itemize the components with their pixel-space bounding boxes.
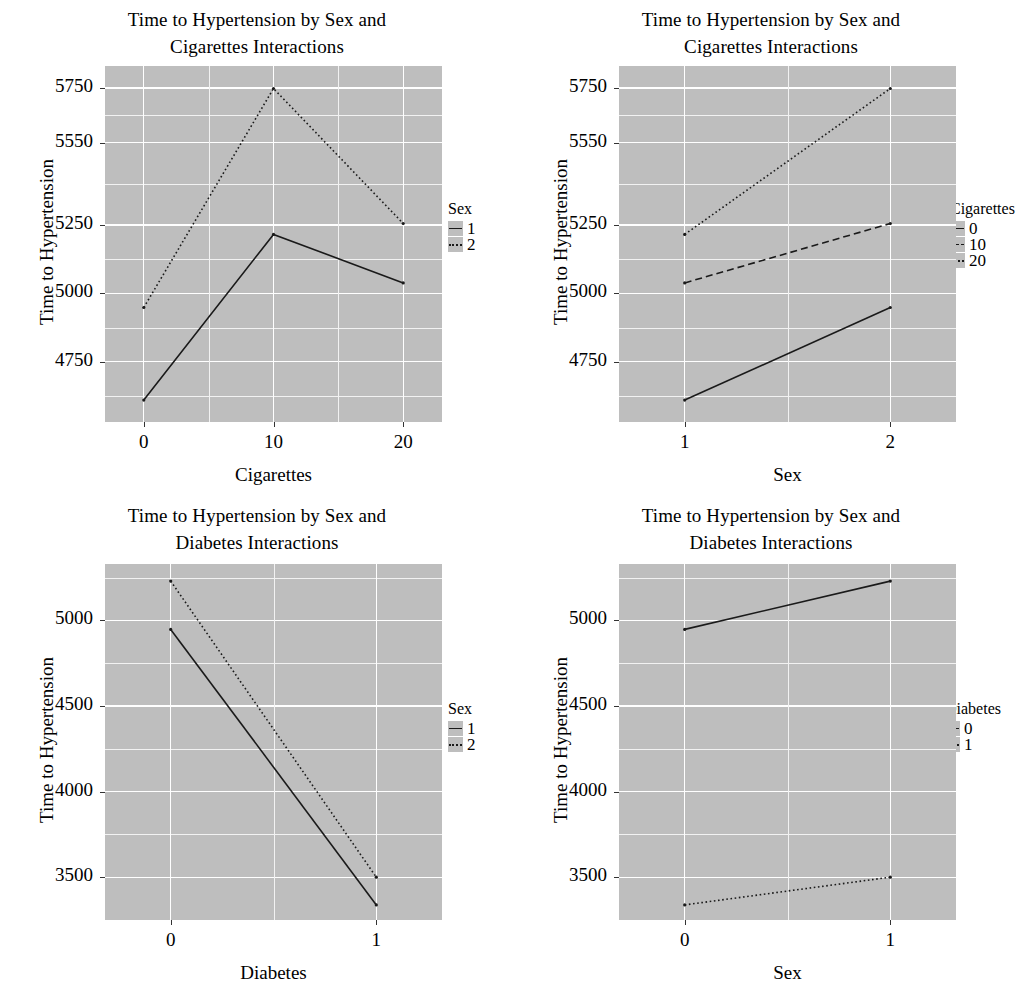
- legend-item-20[interactable]: 20: [950, 253, 1015, 268]
- legend-line-sample: [449, 244, 462, 246]
- panel-title: Time to Hypertension by Sex and Diabetes…: [0, 502, 514, 556]
- y-axis-label: Time to Hypertension: [550, 615, 572, 865]
- series-point: [683, 399, 686, 402]
- x-axis-label: Sex: [619, 464, 956, 486]
- panel-title: Time to Hypertension by Sex and Cigarett…: [0, 6, 514, 60]
- series-line-1: [171, 629, 377, 905]
- legend-title: Cigarettes: [950, 200, 1015, 218]
- x-axis-label: Diabetes: [105, 962, 442, 984]
- series-point: [889, 87, 892, 90]
- series-point: [169, 580, 172, 583]
- y-tick-mark: [100, 362, 105, 363]
- x-tick-mark: [274, 422, 275, 427]
- x-tick-label: 10: [234, 431, 314, 453]
- y-tick-label: 5550: [569, 130, 607, 152]
- y-tick-label: 5750: [55, 75, 93, 97]
- x-axis-label: Cigarettes: [105, 464, 442, 486]
- y-tick-label: 5000: [55, 280, 93, 302]
- series-point: [889, 876, 892, 879]
- legend-item-label: 0: [964, 721, 973, 736]
- legend-key-2: [448, 237, 463, 252]
- series-point: [889, 222, 892, 225]
- series-point: [683, 903, 686, 906]
- legend-item-label: 2: [467, 737, 476, 752]
- legend-item-0[interactable]: 0: [950, 221, 1015, 236]
- x-tick-mark: [890, 920, 891, 925]
- y-tick-label: 4750: [569, 349, 607, 371]
- panel-title-line2: Diabetes Interactions: [0, 529, 514, 556]
- x-tick-mark: [890, 422, 891, 427]
- y-tick-mark: [100, 620, 105, 621]
- series-point: [683, 281, 686, 284]
- y-tick-mark: [614, 293, 619, 294]
- y-tick-mark: [614, 706, 619, 707]
- legend: Cigarettes 01020: [950, 200, 1015, 269]
- x-tick-label: 0: [104, 431, 184, 453]
- panel-title-line1: Time to Hypertension by Sex and: [128, 9, 386, 30]
- x-tick-label: 2: [850, 431, 930, 453]
- legend-line-sample: [449, 228, 462, 229]
- x-tick-mark: [685, 920, 686, 925]
- y-tick-label: 3500: [55, 864, 93, 886]
- y-tick-mark: [100, 706, 105, 707]
- y-tick-mark: [100, 792, 105, 793]
- y-tick-label: 5000: [569, 280, 607, 302]
- series-line-2: [144, 89, 403, 308]
- legend-item-label: 1: [467, 221, 476, 236]
- legend-items: 01020: [950, 221, 1015, 268]
- panel-title-line1: Time to Hypertension by Sex and: [642, 9, 900, 30]
- legend-item-2[interactable]: 2: [448, 237, 476, 252]
- series-point: [683, 628, 686, 631]
- legend-line-sample: [449, 728, 462, 729]
- panel-title-line1: Time to Hypertension by Sex and: [642, 505, 900, 526]
- series-line-0: [685, 581, 891, 629]
- y-tick-mark: [100, 877, 105, 878]
- panel-title: Time to Hypertension by Sex and Diabetes…: [514, 502, 1028, 556]
- panel-top-left: Time to Hypertension by Sex and Cigarett…: [0, 0, 514, 496]
- x-tick-mark: [403, 422, 404, 427]
- legend-item-1[interactable]: 1: [448, 221, 476, 236]
- legend-item-label: 1: [467, 721, 476, 736]
- plot-panel: [105, 564, 442, 920]
- series-line-10: [685, 224, 891, 283]
- y-tick-mark: [614, 620, 619, 621]
- legend-item-label: 1: [964, 737, 973, 752]
- series-line-20: [685, 89, 891, 235]
- y-tick-label: 5250: [569, 212, 607, 234]
- y-tick-mark: [100, 293, 105, 294]
- series-line-2: [171, 581, 377, 877]
- legend-key-1: [448, 721, 463, 736]
- series-point: [142, 399, 145, 402]
- legend-item-label: 0: [969, 221, 978, 236]
- series-layer: [619, 564, 956, 920]
- y-tick-mark: [614, 362, 619, 363]
- series-point: [402, 281, 405, 284]
- y-tick-label: 4500: [55, 693, 93, 715]
- series-line-1: [685, 877, 891, 905]
- y-tick-label: 5750: [569, 75, 607, 97]
- legend-item-label: 10: [969, 237, 986, 252]
- plot-panel: [105, 66, 442, 422]
- x-tick-label: 1: [645, 431, 725, 453]
- legend-line-sample: [449, 744, 462, 746]
- y-tick-label: 5000: [55, 607, 93, 629]
- legend-items: 12: [448, 721, 476, 752]
- legend-title: Sex: [448, 700, 476, 718]
- legend-item-10[interactable]: 10: [950, 237, 1015, 252]
- series-point: [683, 233, 686, 236]
- x-tick-label: 1: [336, 929, 416, 951]
- panel-title-line2: Diabetes Interactions: [514, 529, 1028, 556]
- legend-item-2[interactable]: 2: [448, 737, 476, 752]
- x-tick-mark: [376, 920, 377, 925]
- x-tick-mark: [144, 422, 145, 427]
- x-tick-label: 20: [363, 431, 443, 453]
- series-point: [889, 306, 892, 309]
- plot-panel: [619, 564, 956, 920]
- panel-top-right: Time to Hypertension by Sex and Cigarett…: [514, 0, 1028, 496]
- legend-item-1[interactable]: 1: [448, 721, 476, 736]
- panel-title-line2: Cigarettes Interactions: [514, 33, 1028, 60]
- x-tick-mark: [171, 920, 172, 925]
- legend-item-label: 2: [467, 237, 476, 252]
- y-tick-label: 5000: [569, 607, 607, 629]
- legend-title: Sex: [448, 200, 476, 218]
